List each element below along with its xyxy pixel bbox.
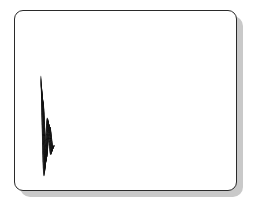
mesh-line [41,76,52,176]
mesh-surface-plot [15,11,236,190]
figure-panel [14,10,237,191]
screenshot-root [0,0,255,207]
